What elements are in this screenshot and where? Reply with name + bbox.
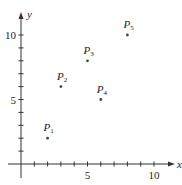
data-points: P1P2P3P4P5 bbox=[43, 18, 135, 140]
x-tick-label: 5 bbox=[85, 169, 91, 181]
y-tick-label: 10 bbox=[5, 29, 17, 41]
data-point-p2: P2 bbox=[56, 70, 68, 88]
point-label: P1 bbox=[43, 121, 55, 135]
x-axis-arrow-icon bbox=[168, 162, 175, 167]
data-point-p3: P3 bbox=[83, 44, 95, 62]
x-axis-label: x bbox=[176, 158, 182, 170]
point-marker-icon bbox=[99, 98, 102, 101]
scatter-plot: 510510 P1P2P3P4P5 x y bbox=[0, 0, 182, 185]
data-point-p1: P1 bbox=[43, 121, 55, 139]
point-marker-icon bbox=[46, 137, 49, 140]
data-point-p5: P5 bbox=[122, 18, 134, 36]
point-marker-icon bbox=[126, 34, 129, 37]
point-label: P5 bbox=[122, 18, 134, 32]
y-axis-arrow-icon bbox=[19, 12, 24, 19]
point-label: P3 bbox=[83, 44, 95, 58]
y-axis-label: y bbox=[26, 8, 32, 20]
point-marker-icon bbox=[86, 59, 89, 62]
point-label: P4 bbox=[96, 83, 108, 97]
x-tick-label: 10 bbox=[149, 169, 161, 181]
tick-labels: 510510 bbox=[5, 29, 160, 181]
y-tick-label: 5 bbox=[11, 94, 17, 106]
point-label: P2 bbox=[56, 70, 68, 84]
axes bbox=[8, 12, 175, 178]
point-marker-icon bbox=[60, 85, 63, 88]
data-point-p4: P4 bbox=[96, 83, 108, 101]
